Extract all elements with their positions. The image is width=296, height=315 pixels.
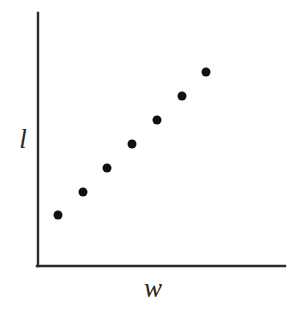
data-point	[202, 68, 211, 77]
data-point	[103, 164, 112, 173]
y-axis-label: l	[12, 126, 34, 153]
scatter-plot-figure: l w	[0, 0, 296, 315]
data-point	[153, 116, 162, 125]
data-point	[128, 140, 137, 149]
plot-background	[0, 0, 296, 315]
data-point	[178, 92, 187, 101]
plot-canvas	[0, 0, 296, 315]
data-point	[54, 211, 63, 220]
data-point	[79, 188, 88, 197]
x-axis-label: w	[132, 275, 174, 302]
